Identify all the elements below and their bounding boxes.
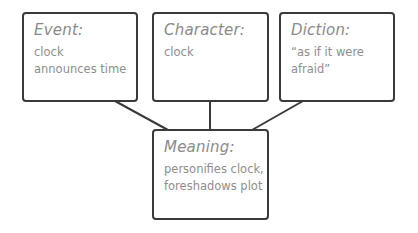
event-line-1: clock [34,44,136,61]
meaning-line-2: foreshadows plot [164,178,267,195]
meaning-box: Meaning: personifies clock, foreshadows … [152,129,269,220]
connector-diction-meaning [252,101,303,130]
diction-box: Diction: “as if it were afraid” [279,12,395,102]
character-title: Character: [164,21,267,39]
event-box: Event: clock announces time [22,12,138,102]
event-title: Event: [34,21,136,39]
meaning-title: Meaning: [164,138,267,156]
diction-title: Diction: [291,21,393,39]
character-line-1: clock [164,44,267,61]
diction-line-1: “as if it were [291,44,393,61]
connector-event-meaning [115,101,168,130]
character-box: Character: clock [152,12,269,102]
meaning-line-1: personifies clock, [164,161,267,178]
diction-line-2: afraid” [291,61,393,78]
event-line-2: announces time [34,61,136,78]
